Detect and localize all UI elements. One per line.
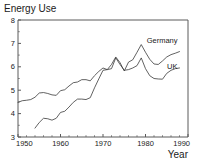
series-label-germany: Germany — [147, 36, 178, 45]
y-tick-label: 7 — [11, 39, 15, 48]
x-tick-label: 1950 — [16, 139, 33, 148]
y-tick-label: 6 — [11, 62, 15, 71]
x-axis-label: Year — [168, 149, 189, 160]
series-inline-labels: UKGermany — [147, 36, 178, 71]
y-tick-label: 8 — [11, 16, 15, 25]
x-tick-label: 1990 — [173, 139, 190, 148]
energy-use-chart: Energy Use 345678 19501960197019801990 U… — [0, 0, 201, 162]
chart-canvas: Energy Use 345678 19501960197019801990 U… — [0, 0, 201, 162]
series-line-germany — [35, 45, 180, 129]
y-tick-label: 4 — [11, 109, 15, 118]
y-tick-label: 3 — [11, 133, 15, 142]
chart-title: Energy Use — [4, 3, 57, 14]
series-label-uk: UK — [167, 62, 177, 71]
y-tick-label: 5 — [11, 86, 15, 95]
x-tick-label: 1970 — [95, 139, 112, 148]
x-tick-label: 1960 — [52, 139, 69, 148]
y-axis-tick-labels: 345678 — [11, 16, 15, 142]
data-series-layer — [18, 45, 180, 129]
series-line-uk — [18, 58, 180, 102]
x-tick-label: 1980 — [137, 139, 154, 148]
x-axis-tick-labels: 19501960197019801990 — [16, 139, 190, 148]
